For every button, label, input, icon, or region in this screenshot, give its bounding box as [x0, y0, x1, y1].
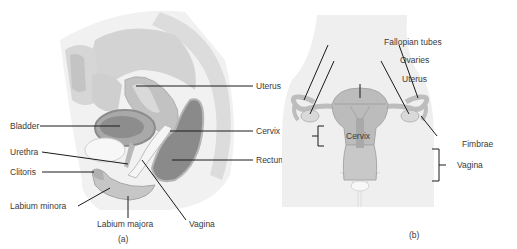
label-ovaries: Ovaries: [400, 55, 429, 65]
label-fallopian-tubes: Fallopian tubes: [384, 37, 442, 47]
label-labium-minora: Labium minora: [10, 201, 66, 211]
label-urethra: Urethra: [10, 147, 38, 157]
label-vagina-b: Vagina: [457, 160, 483, 170]
panel-b-frontal-diagram: Fallopian tubes Ovaries Uterus Cervix Fi…: [262, 0, 517, 249]
label-vagina: Vagina: [189, 219, 215, 229]
label-cervix-b: Cervix: [346, 131, 370, 141]
caption-b: (b): [409, 230, 419, 240]
label-labium-majora: Labium majora: [97, 219, 153, 229]
label-fimbrae: Fimbrae: [462, 139, 493, 149]
panel-a-sagittal-diagram: Bladder Urethra Clitoris Labium minora L…: [0, 0, 262, 249]
label-uterus-b: Uterus: [402, 74, 427, 84]
label-clitoris: Clitoris: [10, 167, 36, 177]
caption-a: (a): [118, 234, 128, 244]
label-bladder: Bladder: [10, 121, 39, 131]
